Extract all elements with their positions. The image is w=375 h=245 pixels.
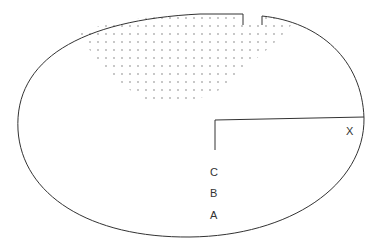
label-c: C <box>210 167 218 178</box>
label-x: X <box>346 126 353 137</box>
arena-diagram <box>0 0 375 245</box>
label-a: A <box>210 210 217 221</box>
label-b: B <box>210 188 217 199</box>
shaded-region <box>70 10 300 110</box>
corridor-line <box>215 117 364 150</box>
